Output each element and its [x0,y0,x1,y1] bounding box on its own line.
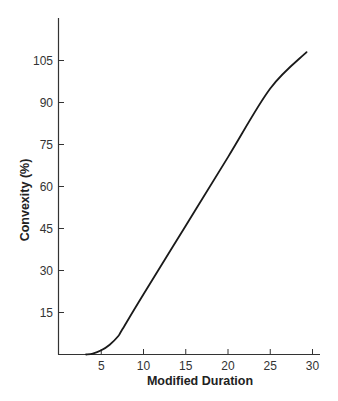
convexity-chart: 153045607590105 51015202530 Modified Dur… [0,0,338,401]
x-axis-title: Modified Duration [147,374,253,388]
convexity-curve [86,52,307,354]
x-tick-label: 30 [306,359,320,373]
y-tick-label: 45 [40,222,54,236]
y-tick-label: 90 [40,96,54,110]
x-tick-label: 5 [98,359,105,373]
y-tick-label: 60 [40,180,54,194]
axes [58,18,320,355]
y-tick-label: 75 [40,138,54,152]
x-ticks: 51015202530 [98,349,320,373]
y-tick-label: 105 [33,54,53,68]
x-tick-label: 25 [264,359,278,373]
y-tick-label: 30 [40,264,54,278]
y-axis-title: Convexity (%) [18,159,32,242]
y-ticks: 153045607590105 [33,54,64,320]
x-tick-label: 15 [179,359,193,373]
x-tick-label: 10 [137,359,151,373]
y-tick-label: 15 [40,306,54,320]
x-tick-label: 20 [221,359,235,373]
